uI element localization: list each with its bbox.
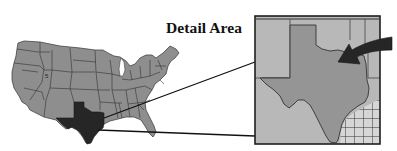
us-overview-map: 5 <box>12 41 179 144</box>
detail-area-title: Detail Area <box>166 19 242 37</box>
detail-map <box>255 16 392 144</box>
connector-line-lower <box>98 130 255 136</box>
figure: 5 Detail Area <box>0 0 397 151</box>
